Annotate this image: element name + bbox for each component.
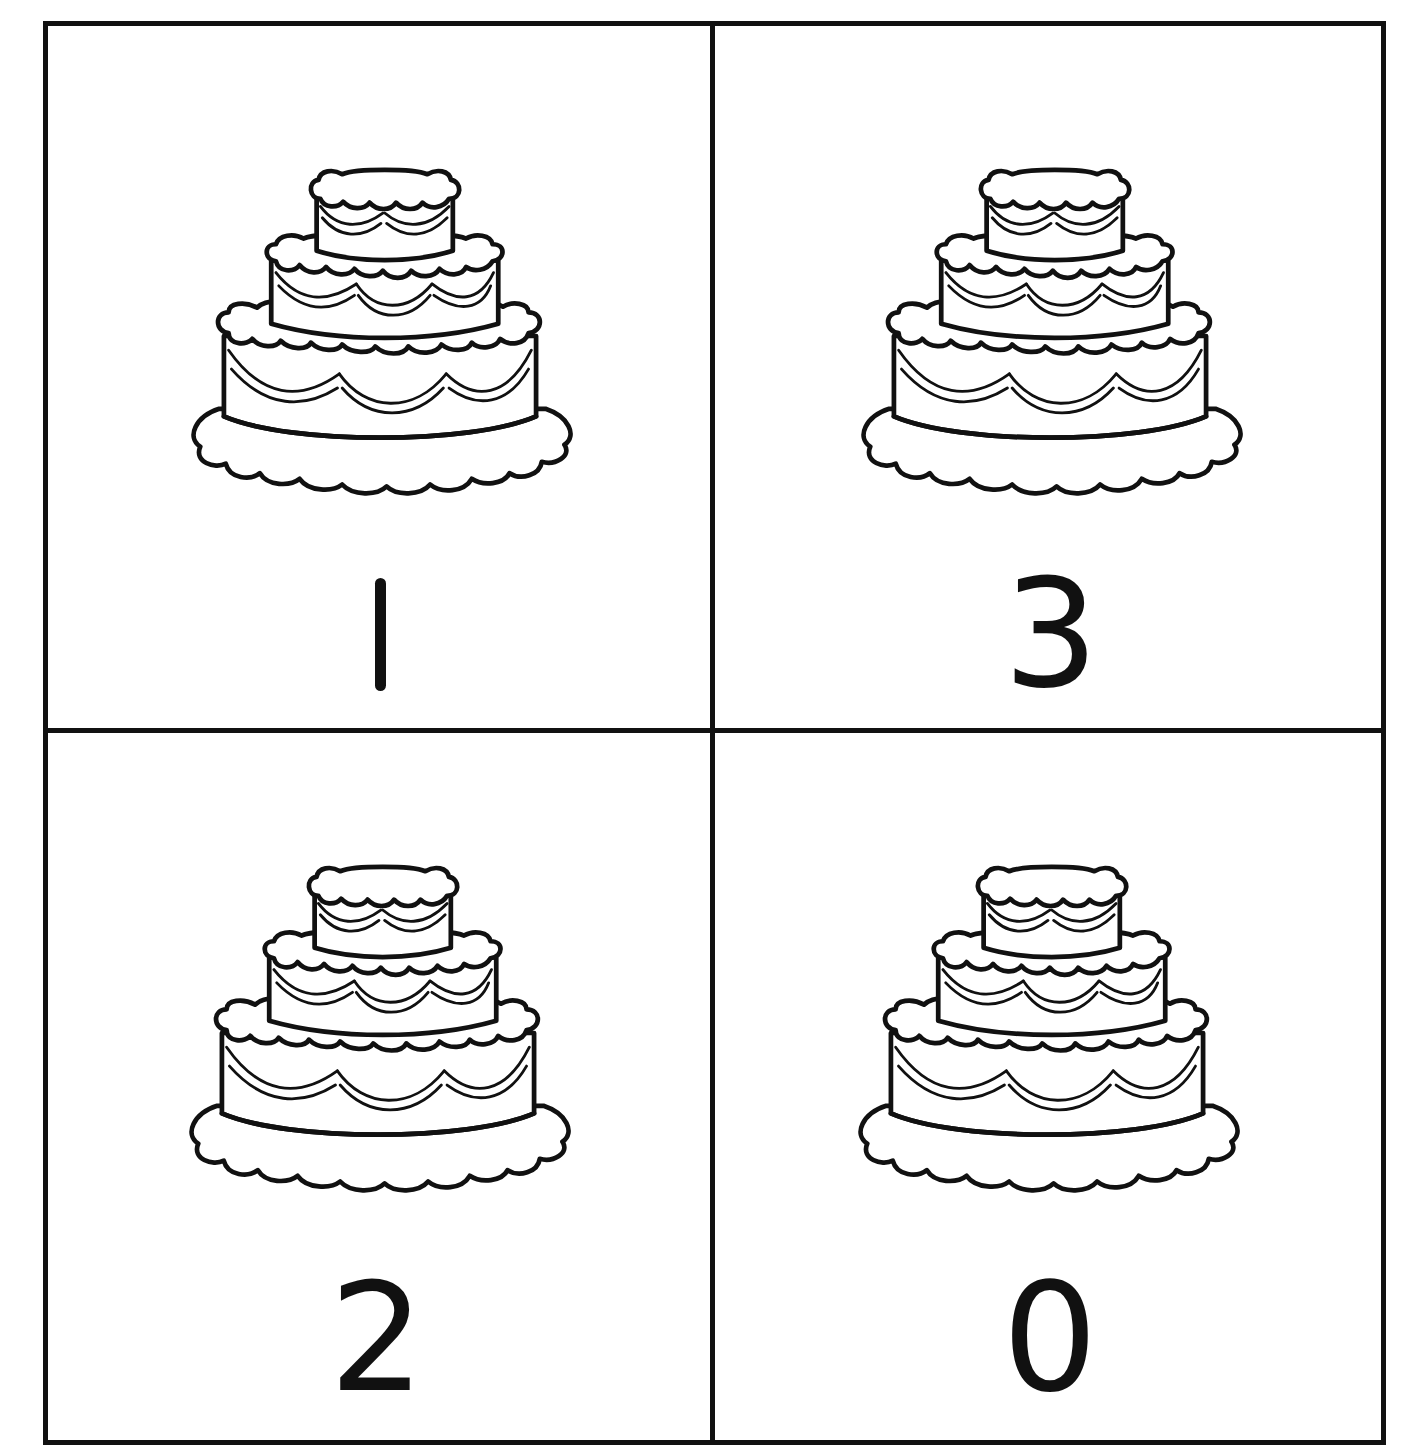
card-grid: 1 3 2 0	[48, 26, 1381, 1440]
number-card-0: 0	[715, 733, 1381, 1440]
number-card-1: 1	[48, 26, 710, 728]
cake-icon	[168, 858, 588, 1208]
number-card-2: 2	[48, 733, 710, 1440]
cake-icon	[840, 161, 1260, 511]
cake-icon	[170, 161, 590, 511]
number-card-sheet: 1 3 2 0	[43, 21, 1386, 1445]
cake-icon	[837, 858, 1257, 1208]
card-number: 2	[44, 1263, 710, 1413]
card-number: 0	[719, 1263, 1381, 1413]
number-card-3: 3	[715, 26, 1381, 728]
digit-one-stroke	[375, 578, 386, 691]
card-number: 3	[721, 559, 1381, 709]
